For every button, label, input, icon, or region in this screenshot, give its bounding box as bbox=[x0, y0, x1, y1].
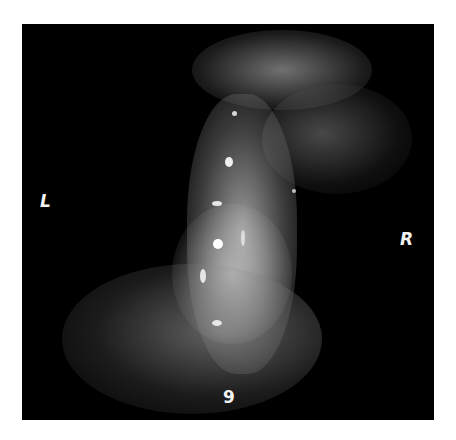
bright-spot bbox=[292, 189, 296, 193]
bright-spot bbox=[213, 239, 223, 249]
bright-spot bbox=[241, 230, 245, 246]
left-label: L bbox=[40, 191, 51, 211]
mid-body bbox=[172, 204, 292, 344]
bright-spot bbox=[200, 269, 206, 283]
bright-spot bbox=[232, 111, 237, 116]
bright-spot bbox=[225, 157, 233, 167]
bright-spot bbox=[212, 320, 222, 326]
image-frame bbox=[22, 24, 434, 420]
image-number-label: 9 bbox=[223, 387, 235, 407]
bright-spot bbox=[212, 201, 222, 206]
right-label: R bbox=[400, 229, 413, 249]
